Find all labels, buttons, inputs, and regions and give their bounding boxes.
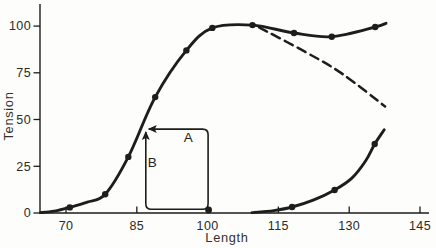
total-tension-data-point: [67, 204, 73, 210]
passive-tension-data-point: [289, 204, 295, 210]
x-axis-title: Length: [205, 230, 248, 245]
x-tick-label: 145: [409, 219, 431, 233]
y-axis-title: Tension: [1, 91, 16, 140]
y-tick-label: 100: [9, 19, 31, 33]
passive-tension-curve: [252, 130, 384, 213]
total-tension-data-point: [291, 30, 297, 36]
loop-label-a: A: [184, 130, 193, 145]
length-tension-figure: 70851001151301450255075100 AB Tension Le…: [0, 0, 436, 248]
total-tension-data-point: [183, 47, 189, 53]
y-tick-label: 0: [24, 206, 31, 220]
x-tick-label: 85: [129, 219, 144, 233]
annotations: AB: [142, 125, 212, 213]
total-tension-data-point: [249, 22, 255, 28]
total-tension-data-point: [329, 34, 335, 40]
x-tick-label: 70: [59, 219, 74, 233]
curves: [41, 22, 387, 213]
x-tick-label: 115: [268, 219, 289, 233]
total-tension-data-point: [152, 94, 158, 100]
total-tension-curve: [41, 23, 387, 212]
axes: 70851001151301450255075100: [9, 4, 431, 233]
x-tick-label: 130: [338, 219, 360, 233]
axis-lines: [40, 4, 429, 213]
loop-label-b: B: [148, 155, 157, 170]
plot-canvas: 70851001151301450255075100 AB Tension Le…: [0, 0, 436, 248]
passive-tension-data-point: [372, 141, 378, 147]
total-tension-data-point: [102, 191, 108, 197]
loop-corner-dot: [205, 207, 212, 214]
y-tick-label: 25: [16, 160, 31, 174]
y-tick-label: 50: [16, 113, 31, 127]
total-tension-data-point: [125, 154, 131, 160]
total-tension-data-point: [372, 24, 378, 30]
total-tension-data-point: [209, 25, 215, 31]
extrapolated-tension-dashed-curve: [259, 27, 385, 106]
y-tick-label: 75: [16, 66, 31, 80]
passive-tension-data-point: [331, 187, 337, 193]
